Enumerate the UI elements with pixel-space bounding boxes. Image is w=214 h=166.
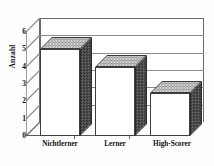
x-label-high-scorer: High-Scorer (153, 140, 191, 148)
bar-lerner (95, 67, 135, 136)
x-axis-labels: Nichtlerner Lerner High-Scorer (26, 140, 204, 160)
depth-connector (26, 53, 40, 67)
depth-connector (26, 105, 40, 119)
bar-high-scorer (150, 93, 190, 136)
bar-side-face (80, 37, 92, 136)
plot-area (26, 18, 204, 136)
depth-connector (26, 70, 40, 84)
x-label-nichtlerner: Nichtlerner (42, 140, 78, 148)
bar-chart: Anzahl 0 1 2 3 4 5 6 (0, 0, 214, 166)
bar-front-face (95, 67, 135, 136)
x-tick-mark (129, 136, 130, 139)
bar-front-face (40, 49, 80, 136)
bar-front-face (150, 93, 190, 136)
depth-connector (26, 18, 40, 32)
depth-connector (26, 87, 40, 101)
depth-connector (26, 35, 40, 49)
y-axis-tick-labels: 0 1 2 3 4 5 6 (14, 18, 26, 136)
x-label-lerner: Lerner (104, 140, 126, 148)
gridline-top (40, 18, 204, 19)
bar-side-face (135, 55, 147, 136)
x-tick-mark (74, 136, 75, 139)
bar-nichtlerner (40, 49, 80, 136)
